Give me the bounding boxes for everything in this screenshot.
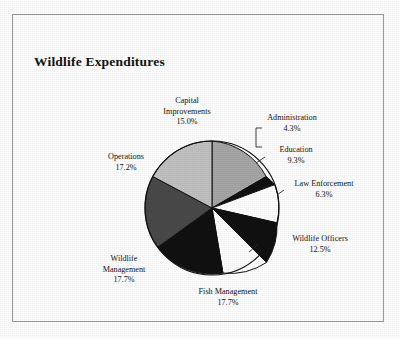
label-percent: 6.3% <box>286 190 362 201</box>
label-percent: 17.7% <box>186 298 270 309</box>
label-line-1: Wildlife Officers <box>282 234 358 245</box>
label-percent: 12.5% <box>282 245 358 256</box>
leader-line-law-enforcement <box>277 190 284 195</box>
label-percent: 17.2% <box>94 163 158 174</box>
label-line-1: Fish Management <box>186 287 270 298</box>
label-line-2: Management <box>88 265 160 276</box>
label-line-1: Education <box>270 145 322 156</box>
slice-label-administration: Administration 4.3% <box>258 113 326 134</box>
label-percent: 9.3% <box>270 156 322 167</box>
label-percent: 4.3% <box>258 124 326 135</box>
slice-label-wildlife-officers: Wildlife Officers 12.5% <box>282 234 358 255</box>
slice-label-wildlife-management: Wildlife Management 17.7% <box>88 254 160 286</box>
slice-label-education: Education 9.3% <box>270 145 322 166</box>
chart-page: Wildlife Expenditures <box>0 0 400 338</box>
slice-label-law-enforcement: Law Enforcement 6.3% <box>286 179 362 200</box>
label-percent: 15.0% <box>150 117 224 128</box>
slice-label-capital-improvements: Capital Improvements 15.0% <box>150 96 224 128</box>
label-line-1: Wildlife <box>88 254 160 265</box>
label-line-2: Improvements <box>150 107 224 118</box>
slice-label-fish-management: Fish Management 17.7% <box>186 287 270 308</box>
slice-label-operations: Operations 17.2% <box>94 152 158 173</box>
label-percent: 17.7% <box>88 275 160 286</box>
label-line-1: Capital <box>150 96 224 107</box>
label-line-1: Operations <box>94 152 158 163</box>
label-line-1: Law Enforcement <box>286 179 362 190</box>
label-line-1: Administration <box>258 113 326 124</box>
